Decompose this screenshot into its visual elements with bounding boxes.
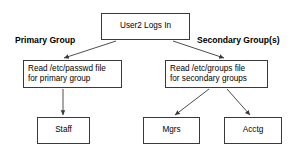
- node-login-line1: User2 Logs In: [120, 21, 171, 32]
- node-user-logs-in[interactable]: User2 Logs In: [101, 13, 190, 40]
- node-staff[interactable]: Staff: [37, 117, 90, 144]
- node-groups-line1: Read /etc/groups file: [170, 64, 245, 75]
- node-read-groups[interactable]: Read /etc/groups file for secondary grou…: [165, 60, 268, 88]
- node-passwd-line1: Read /etc/passwd file: [28, 64, 106, 75]
- edge-groups-to-acctg: [227, 89, 250, 115]
- edge-groups-to-mgrs: [175, 89, 209, 115]
- node-mgrs[interactable]: Mgrs: [143, 117, 200, 144]
- flowchart-canvas: Primary Group Secondary Group(s) User2 L…: [0, 0, 300, 154]
- node-read-passwd[interactable]: Read /etc/passwd file for primary group: [23, 60, 122, 88]
- caption-primary-group: Primary Group: [15, 35, 75, 45]
- node-mgrs-label: Mgrs: [162, 125, 180, 136]
- node-acctg-label: Acctg: [243, 125, 263, 136]
- node-acctg[interactable]: Acctg: [224, 117, 282, 144]
- node-passwd-line2: for primary group: [28, 74, 90, 85]
- node-groups-line2: for secondary groups: [170, 74, 247, 85]
- node-staff-label: Staff: [55, 125, 72, 136]
- caption-secondary-group: Secondary Group(s): [197, 35, 280, 45]
